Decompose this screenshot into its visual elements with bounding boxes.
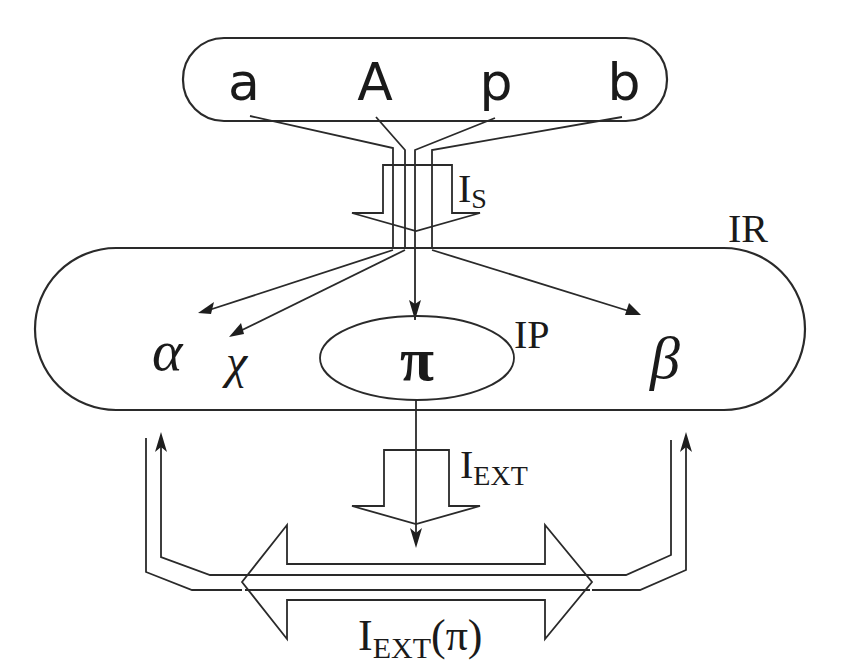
line-from-A xyxy=(376,117,405,248)
arrowhead-beta-icon xyxy=(625,303,641,315)
input-p: p xyxy=(479,52,512,112)
ip-label: IP xyxy=(514,312,550,357)
input-lines xyxy=(250,116,622,320)
is-label: IS xyxy=(458,166,487,214)
symbol-pi: π xyxy=(400,325,434,393)
ir-label: IR xyxy=(728,206,768,251)
right-return-channel xyxy=(590,432,692,590)
top-input-box: a A p b xyxy=(183,38,667,121)
iext-label: IEXT xyxy=(460,442,528,491)
line-from-a xyxy=(250,116,393,248)
distribution-arrows xyxy=(198,250,641,337)
iext-pi-label: IEXT(π) xyxy=(358,611,483,664)
symbol-alpha: α xyxy=(152,318,184,383)
information-flow-diagram: a A p b IS IR α χ π IP β IEXT xyxy=(0,0,842,668)
arrowhead-alpha-icon xyxy=(198,302,214,314)
symbol-beta: β xyxy=(649,325,680,391)
input-A: A xyxy=(357,52,393,112)
symbol-chi: χ xyxy=(222,335,249,388)
line-from-p xyxy=(415,118,495,320)
input-b: b xyxy=(607,52,640,112)
left-return-channel xyxy=(146,432,245,590)
input-a: a xyxy=(228,52,260,112)
